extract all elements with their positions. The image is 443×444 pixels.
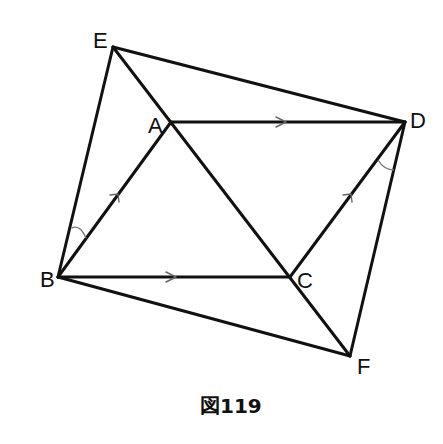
angle-arc-EBA-icon bbox=[72, 227, 87, 238]
label-A: A bbox=[148, 113, 163, 138]
figure-caption: 図119 bbox=[200, 394, 262, 418]
angle-marks bbox=[72, 160, 395, 238]
segment-ED bbox=[113, 47, 405, 122]
label-D: D bbox=[410, 108, 426, 133]
segment-AB bbox=[58, 122, 171, 277]
label-F: F bbox=[357, 354, 370, 379]
figure-edges bbox=[58, 47, 405, 356]
segment-EB bbox=[58, 47, 113, 277]
segment-EF-diagonal bbox=[113, 47, 350, 356]
label-E: E bbox=[93, 28, 108, 53]
angle-arc-CDF-icon bbox=[378, 160, 394, 170]
label-C: C bbox=[297, 268, 313, 293]
geometry-figure: E A D B C F 図119 bbox=[0, 0, 443, 444]
label-B: B bbox=[40, 267, 55, 292]
